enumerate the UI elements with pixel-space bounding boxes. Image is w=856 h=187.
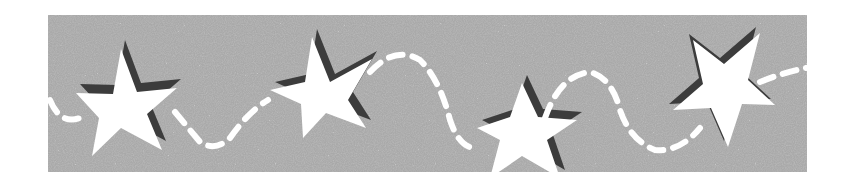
star-banner-illustration bbox=[0, 0, 856, 187]
